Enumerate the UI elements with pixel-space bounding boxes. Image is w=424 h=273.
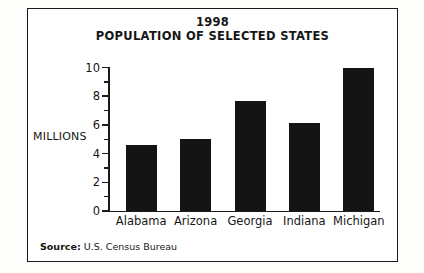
category-label-alabama: Alabama — [116, 214, 167, 228]
bar-michigan — [343, 68, 374, 212]
y-tick-label: 0 — [74, 204, 100, 218]
bar-alabama — [126, 145, 157, 211]
y-axis-tick-labels: 0246810 — [70, 0, 100, 273]
y-tick-label: 2 — [74, 175, 100, 189]
category-label-arizona: Arizona — [174, 214, 217, 228]
bar-indiana — [289, 123, 320, 211]
bar-arizona — [180, 139, 211, 211]
bar-georgia — [235, 101, 266, 211]
x-axis-category-labels: AlabamaArizonaGeorgiaIndianaMichigan — [108, 214, 380, 234]
category-label-indiana: Indiana — [283, 214, 326, 228]
page-canvas: 1998 POPULATION OF SELECTED STATES Sourc… — [0, 0, 424, 273]
category-label-georgia: Georgia — [227, 214, 272, 228]
bars-layer — [108, 67, 380, 211]
category-label-michigan: Michigan — [333, 214, 385, 228]
y-tick-label: 8 — [74, 89, 100, 103]
y-tick-label: 6 — [74, 118, 100, 132]
source-note: Source: U.S. Census Bureau — [40, 241, 177, 252]
y-tick-label: 4 — [74, 147, 100, 161]
y-tick-label: 10 — [74, 61, 100, 75]
